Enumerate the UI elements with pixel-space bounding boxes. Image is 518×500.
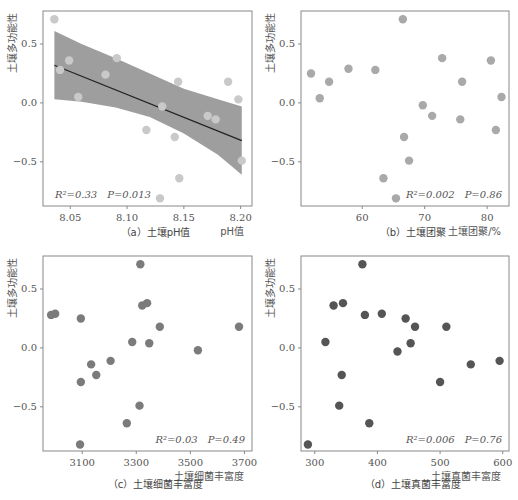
- data-point: [224, 77, 232, 85]
- x-tick-label: 3500: [178, 457, 203, 468]
- data-point: [392, 194, 400, 202]
- y-tick-label: −0.5: [13, 401, 37, 412]
- data-point: [442, 322, 450, 330]
- data-point: [492, 126, 500, 134]
- data-point: [136, 260, 144, 268]
- y-axis-label: 土壤多功能性: [264, 13, 276, 73]
- data-point: [379, 174, 387, 182]
- data-point: [304, 440, 312, 448]
- data-point: [339, 299, 347, 307]
- data-point: [238, 156, 246, 164]
- x-tick-label: 60: [356, 212, 369, 223]
- data-point: [399, 15, 407, 23]
- data-point: [76, 440, 84, 448]
- data-point: [106, 357, 114, 365]
- data-point: [174, 77, 182, 85]
- data-point: [487, 56, 495, 64]
- x-tick-label: 8.15: [173, 212, 195, 223]
- data-point: [467, 360, 475, 368]
- data-point: [113, 54, 121, 62]
- x-axis-label: 土壤团聚/%: [448, 225, 501, 237]
- data-point: [316, 94, 324, 102]
- data-point: [325, 77, 333, 85]
- x-tick-label: 3700: [232, 457, 257, 468]
- data-point: [92, 371, 100, 379]
- x-tick-label: 8.10: [116, 212, 138, 223]
- p-value: P=0.49: [207, 434, 246, 445]
- data-point: [211, 115, 219, 123]
- y-tick-label: 0.0: [21, 342, 37, 353]
- data-point: [419, 101, 427, 109]
- x-tick-label: 500: [431, 457, 450, 468]
- data-point: [87, 360, 95, 368]
- panel-a-ph: −0.50.00.58.058.108.158.20土壤多功能性pH值R²=0.…: [6, 11, 252, 238]
- data-point: [393, 347, 401, 355]
- y-tick-label: 0.5: [279, 38, 295, 49]
- data-point: [51, 310, 59, 318]
- data-point: [329, 301, 337, 309]
- data-point: [456, 115, 464, 123]
- plot-frame: [301, 256, 509, 451]
- y-tick-label: −0.5: [271, 401, 295, 412]
- data-point: [65, 56, 73, 64]
- data-point: [194, 346, 202, 354]
- y-tick-label: 0.5: [21, 38, 37, 49]
- x-tick-label: 600: [493, 457, 512, 468]
- data-point: [143, 299, 151, 307]
- y-tick-label: 0.5: [279, 283, 295, 294]
- data-point: [344, 65, 352, 73]
- data-point: [400, 133, 408, 141]
- r-squared: R²=0.03: [154, 434, 197, 445]
- panel-caption: （c）土壤细菌丰富度: [108, 478, 204, 490]
- r-squared: R²=0.002: [405, 189, 455, 200]
- panel-c-bacterial-richness: −0.50.00.53100330035003700土壤多功能性土壤细菌丰富度R…: [6, 256, 257, 490]
- x-tick-label: 400: [368, 457, 387, 468]
- plot-frame: [301, 11, 509, 206]
- y-tick-label: 0.0: [21, 97, 37, 108]
- p-value: P=0.013: [106, 189, 151, 200]
- data-point: [365, 419, 373, 427]
- figure-2x2-scatter: −0.50.00.58.058.108.158.20土壤多功能性pH值R²=0.…: [0, 0, 518, 500]
- data-point: [128, 338, 136, 346]
- y-tick-label: 0.0: [279, 342, 295, 353]
- data-point: [234, 95, 242, 103]
- data-point: [458, 77, 466, 85]
- data-point: [438, 54, 446, 62]
- p-value: P=0.86: [464, 189, 503, 200]
- panel-caption: （b）土壤团聚: [380, 226, 446, 238]
- panel-b-aggregate: −0.50.00.5607080土壤多功能性土壤团聚/%R²=0.002P=0.…: [264, 11, 509, 238]
- x-tick-label: 80: [481, 212, 494, 223]
- panel-d-fungal-richness: −0.50.00.5300400500600土壤多功能性土壤真菌丰富度R²=0.…: [264, 256, 512, 490]
- data-point: [405, 156, 413, 164]
- panel-caption: （a）土壤pH值: [121, 226, 191, 238]
- data-point: [142, 126, 150, 134]
- stats-annotation: R²=0.03P=0.49: [154, 434, 245, 445]
- y-axis-label: 土壤多功能性: [264, 258, 276, 318]
- data-point: [156, 194, 164, 202]
- data-point: [361, 311, 369, 319]
- data-point: [321, 338, 329, 346]
- panel-caption: （d）土壤真菌丰富度: [365, 478, 461, 490]
- data-point: [175, 174, 183, 182]
- data-point: [123, 419, 131, 427]
- x-tick-label: 300: [305, 457, 324, 468]
- data-point: [158, 102, 166, 110]
- data-point: [56, 66, 64, 74]
- data-point: [50, 15, 58, 23]
- data-point: [338, 371, 346, 379]
- data-point: [77, 378, 85, 386]
- y-tick-label: −0.5: [13, 156, 37, 167]
- data-point: [495, 357, 503, 365]
- data-point: [401, 314, 409, 322]
- data-point: [358, 260, 366, 268]
- x-tick-label: 3300: [124, 457, 149, 468]
- data-point: [436, 378, 444, 386]
- data-point: [101, 70, 109, 78]
- data-point: [428, 112, 436, 120]
- data-point: [307, 69, 315, 77]
- data-point: [171, 133, 179, 141]
- x-tick-label: 8.20: [230, 212, 252, 223]
- data-point: [74, 93, 82, 101]
- r-squared: R²=0.33: [54, 189, 97, 200]
- r-squared: R²=0.006: [405, 434, 455, 445]
